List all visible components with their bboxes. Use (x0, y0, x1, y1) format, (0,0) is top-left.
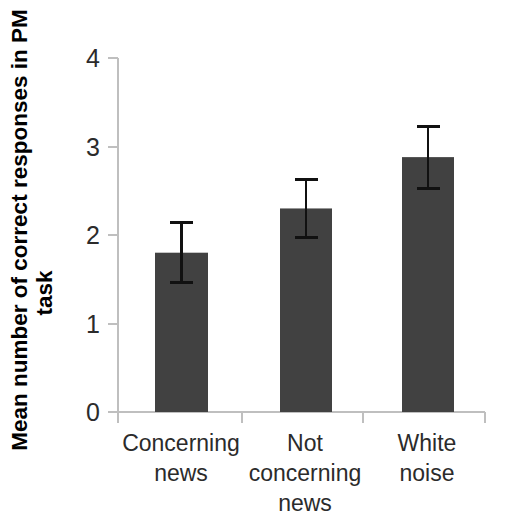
y-axis-title: Mean number of correct responses in PM t… (7, 9, 57, 450)
y-tick-label-4: 4 (86, 44, 100, 72)
chart-canvas: Mean number of correct responses in PM t… (0, 0, 510, 519)
y-tick-label-2: 2 (86, 221, 100, 249)
bar-chart-figure: Mean number of correct responses in PM t… (0, 0, 510, 519)
bars-group (155, 157, 454, 412)
x-tick-label-white-noise: White noise (398, 430, 457, 486)
y-axis-ticks (108, 58, 118, 412)
x-tick-label-line: Not (287, 430, 323, 456)
x-tick-label-not-concerning-news: Not concerning news (249, 430, 362, 516)
x-tick-label-line: concerning (249, 460, 362, 486)
y-tick-label-3: 3 (86, 133, 100, 161)
x-tick-label-line: noise (400, 460, 455, 486)
x-tick-label-line: White (398, 430, 457, 456)
x-tick-label-line: news (154, 460, 208, 486)
y-axis-title-line1: Mean number of correct responses in PM (7, 9, 32, 450)
x-tick-label-concerning-news: Concerning news (122, 430, 240, 486)
y-tick-label-1: 1 (86, 310, 100, 338)
cut-off-caption (70, 505, 490, 519)
bar-white-noise (402, 157, 454, 412)
x-axis-tick-labels: Concerning news Not concerning news Whit… (122, 430, 456, 516)
x-axis-ticks (118, 412, 485, 423)
y-axis-title-line2: task (32, 270, 57, 316)
y-tick-label-0: 0 (86, 398, 100, 426)
x-tick-label-line: Concerning (122, 430, 240, 456)
y-axis-tick-labels: 4 3 2 1 0 (86, 44, 100, 426)
